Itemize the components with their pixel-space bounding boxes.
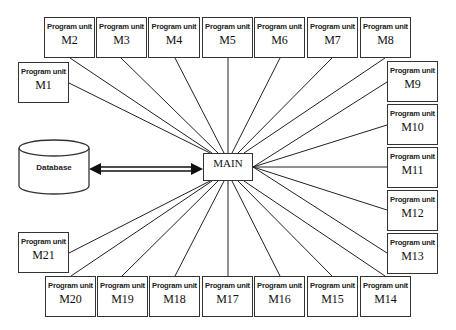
program-unit-caption: Program unit	[361, 22, 410, 31]
program-unit-m16: Program unitM16	[254, 276, 305, 317]
program-unit-name: M4	[149, 33, 199, 48]
program-unit-m8: Program unitM8	[360, 17, 411, 58]
program-unit-name: M8	[361, 33, 410, 48]
program-unit-name: M11	[388, 163, 437, 178]
program-unit-name: M16	[255, 292, 304, 307]
program-unit-caption: Program unit	[98, 281, 147, 290]
connector-line-m14	[244, 181, 385, 276]
program-unit-caption: Program unit	[308, 281, 357, 290]
program-unit-m21: Program unitM21	[18, 232, 69, 273]
program-unit-caption: Program unit	[203, 281, 252, 290]
program-unit-m3: Program unitM3	[96, 17, 147, 58]
program-unit-caption: Program unit	[388, 109, 437, 118]
connector-line-m21	[69, 181, 210, 253]
program-unit-name: M7	[308, 33, 357, 48]
program-unit-m13: Program unitM13	[387, 233, 438, 274]
connector-line-m13	[253, 167, 387, 253]
connector-line-m9	[253, 82, 387, 167]
program-unit-m20: Program unitM20	[45, 276, 96, 317]
program-unit-name: M2	[45, 33, 94, 48]
program-unit-caption: Program unit	[149, 22, 199, 31]
program-unit-name: M21	[19, 248, 68, 263]
program-unit-m1: Program unitM1	[18, 62, 69, 103]
program-unit-caption: Program unit	[150, 281, 199, 290]
program-unit-caption: Program unit	[388, 66, 437, 75]
program-unit-name: M20	[46, 292, 95, 307]
program-unit-name: M12	[388, 206, 437, 221]
program-unit-m7: Program unitM7	[307, 17, 358, 58]
connector-line-m3	[121, 58, 218, 153]
program-unit-m12: Program unitM12	[387, 190, 438, 231]
connector-line-m16	[232, 181, 280, 276]
connector-line-m6	[232, 58, 280, 153]
program-unit-name: M10	[388, 120, 437, 135]
architecture-diagram: Database MAIN Program unitM1Program unit…	[0, 0, 456, 330]
program-unit-name: M13	[388, 249, 437, 264]
connector-line-m2	[70, 58, 212, 153]
program-unit-m18: Program unitM18	[149, 276, 200, 317]
program-unit-caption: Program unit	[255, 281, 304, 290]
program-unit-m4: Program unitM4	[148, 17, 200, 58]
program-unit-caption: Program unit	[46, 281, 95, 290]
program-unit-caption: Program unit	[255, 22, 304, 31]
program-unit-name: M18	[150, 292, 199, 307]
connector-line-m15	[238, 181, 332, 276]
connector-line-m10	[253, 125, 387, 167]
program-unit-caption: Program unit	[45, 22, 94, 31]
program-unit-m19: Program unitM19	[97, 276, 148, 317]
program-unit-caption: Program unit	[388, 238, 437, 247]
program-unit-m2: Program unitM2	[44, 17, 95, 58]
program-unit-m5: Program unitM5	[202, 17, 253, 58]
main-label: MAIN	[213, 157, 242, 169]
main-node: MAIN	[203, 153, 253, 181]
program-unit-name: M19	[98, 292, 147, 307]
program-unit-m15: Program unitM15	[307, 276, 358, 317]
program-unit-m11: Program unitM11	[387, 147, 438, 188]
program-unit-name: M9	[388, 77, 437, 92]
program-unit-name: M17	[203, 292, 252, 307]
program-unit-name: M5	[203, 33, 252, 48]
program-unit-caption: Program unit	[388, 152, 437, 161]
program-unit-caption: Program unit	[308, 22, 357, 31]
program-unit-m9: Program unitM9	[387, 61, 438, 102]
connector-line-m1	[69, 83, 210, 153]
connector-line-m19	[122, 181, 218, 276]
program-unit-name: M6	[255, 33, 304, 48]
database-label: Database	[19, 163, 89, 172]
program-unit-name: M3	[97, 33, 146, 48]
program-unit-caption: Program unit	[19, 67, 68, 76]
program-unit-m6: Program unitM6	[254, 17, 305, 58]
program-unit-caption: Program unit	[203, 22, 252, 31]
connector-line-m8	[244, 58, 385, 153]
program-unit-caption: Program unit	[97, 22, 146, 31]
program-unit-name: M15	[308, 292, 357, 307]
program-unit-m17: Program unitM17	[202, 276, 253, 317]
program-unit-m10: Program unitM10	[387, 104, 438, 145]
program-unit-name: M14	[361, 292, 410, 307]
double-arrow-icon	[89, 163, 203, 175]
connector-line-m12	[253, 167, 387, 210]
connector-line-m20	[71, 181, 212, 276]
connector-line-m7	[238, 58, 332, 153]
program-unit-name: M1	[19, 78, 68, 93]
program-unit-m14: Program unitM14	[360, 276, 411, 317]
program-unit-caption: Program unit	[19, 237, 68, 246]
program-unit-caption: Program unit	[361, 281, 410, 290]
program-unit-caption: Program unit	[388, 195, 437, 204]
